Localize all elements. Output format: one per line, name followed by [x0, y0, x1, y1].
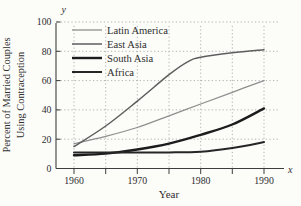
y-tick-label: 80	[42, 46, 52, 57]
contraception-line-chart: Latin AmericaEast AsiaSouth AsiaAfrica 1…	[0, 0, 301, 206]
y-axis-title-line: Using Contraception	[15, 51, 26, 138]
x-tick-label: 1970	[128, 175, 148, 186]
y-tick-label: 60	[42, 75, 52, 86]
x-axis-title: Year	[159, 188, 180, 200]
x-axis-end-letter: x	[287, 164, 293, 175]
legend-label-east-asia: East Asia	[107, 39, 147, 50]
y-tick-label: 20	[42, 134, 52, 145]
x-tick-label: 1990	[254, 175, 274, 186]
y-axis-title-line: Percent of Married Couples	[1, 37, 12, 152]
y-tick-label: 0	[47, 163, 52, 174]
figure-container: Latin AmericaEast AsiaSouth AsiaAfrica 1…	[0, 0, 301, 206]
legend-label-latin-america: Latin America	[107, 25, 168, 36]
x-tick-label: 1980	[191, 175, 211, 186]
axes-layer	[56, 22, 284, 174]
legend-label-africa: Africa	[107, 67, 134, 78]
x-tick-label: 1960	[64, 175, 84, 186]
y-tick-label: 40	[42, 104, 52, 115]
y-axis-end-letter: y	[61, 4, 67, 15]
y-tick-label: 100	[37, 16, 52, 27]
legend-label-south-asia: South Asia	[107, 53, 154, 64]
